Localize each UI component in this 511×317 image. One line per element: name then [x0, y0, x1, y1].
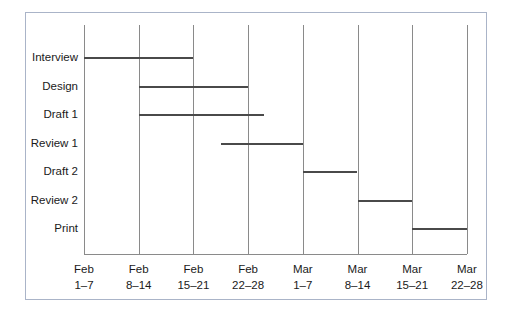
task-bar-review-2[interactable] — [358, 200, 413, 202]
row-label-review-1: Review 1 — [31, 138, 78, 150]
x-tick-days-3: 22–28 — [221, 278, 275, 294]
x-tick-label-5: Mar8–14 — [331, 262, 385, 293]
gridline-week-0 — [84, 25, 85, 254]
x-tick-month-7: Mar — [440, 262, 494, 278]
x-tick-days-6: 15–21 — [385, 278, 439, 294]
row-label-review-2: Review 2 — [31, 195, 78, 207]
task-bar-design[interactable] — [139, 86, 248, 88]
x-tick-month-2: Feb — [166, 262, 220, 278]
x-tick-month-4: Mar — [276, 262, 330, 278]
row-label-draft-1: Draft 1 — [43, 109, 78, 121]
task-bar-draft-2[interactable] — [303, 171, 358, 173]
x-tick-days-2: 15–21 — [166, 278, 220, 294]
gridline-week-6 — [412, 25, 413, 254]
x-tick-label-6: Mar15–21 — [385, 262, 439, 293]
x-tick-days-0: 1–7 — [57, 278, 111, 294]
x-tick-month-3: Feb — [221, 262, 275, 278]
x-tick-month-6: Mar — [385, 262, 439, 278]
gantt-plot-area: InterviewDesignDraft 1Review 1Draft 2Rev… — [26, 13, 488, 301]
row-label-design: Design — [42, 81, 78, 93]
gridline-week-2 — [193, 25, 194, 254]
x-tick-label-0: Feb1–7 — [57, 262, 111, 293]
gridline-week-4 — [303, 25, 304, 254]
row-label-print: Print — [54, 223, 78, 235]
row-label-interview: Interview — [32, 52, 78, 64]
x-tick-month-0: Feb — [57, 262, 111, 278]
task-bar-interview[interactable] — [84, 57, 193, 59]
x-tick-label-3: Feb22–28 — [221, 262, 275, 293]
x-tick-label-1: Feb8–14 — [112, 262, 166, 293]
task-bar-print[interactable] — [412, 228, 467, 230]
gridline-week-1 — [139, 25, 140, 254]
x-tick-month-1: Feb — [112, 262, 166, 278]
task-bar-review-1[interactable] — [221, 143, 303, 145]
x-tick-days-5: 8–14 — [331, 278, 385, 294]
gridline-week-5 — [358, 25, 359, 254]
x-axis-line — [84, 254, 467, 255]
x-tick-days-4: 1–7 — [276, 278, 330, 294]
x-tick-month-5: Mar — [331, 262, 385, 278]
gridline-week-7 — [467, 25, 468, 254]
gridline-week-3 — [248, 25, 249, 254]
x-tick-label-4: Mar1–7 — [276, 262, 330, 293]
x-tick-days-1: 8–14 — [112, 278, 166, 294]
x-tick-days-7: 22–28 — [440, 278, 494, 294]
chart-frame: InterviewDesignDraft 1Review 1Draft 2Rev… — [25, 12, 487, 300]
row-label-draft-2: Draft 2 — [43, 166, 78, 178]
x-tick-label-7: Mar22–28 — [440, 262, 494, 293]
x-tick-label-2: Feb15–21 — [166, 262, 220, 293]
task-bar-draft-1[interactable] — [139, 114, 265, 116]
